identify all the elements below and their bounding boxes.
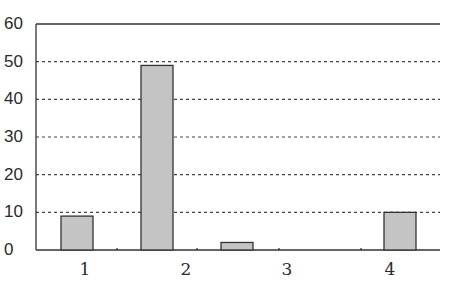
x-tick-label: 1 — [75, 261, 95, 278]
y-tick-label: 60 — [4, 15, 30, 32]
bar-3 — [221, 242, 253, 250]
x-tick-label: 2 — [176, 261, 196, 278]
y-tick-label: 30 — [4, 128, 30, 145]
y-tick-label: 10 — [4, 203, 30, 220]
x-tick-label: 3 — [277, 261, 297, 278]
y-tick-label: 20 — [4, 166, 30, 183]
y-tick-label: 40 — [4, 90, 30, 107]
bar-2 — [141, 65, 173, 250]
y-tick-label: 0 — [4, 241, 30, 258]
bar-4 — [384, 212, 416, 250]
y-tick-label: 50 — [4, 53, 30, 70]
x-tick-label: 4 — [380, 261, 400, 278]
bar-chart: 0102030405060 1234 — [0, 0, 454, 292]
plot-area — [0, 0, 454, 292]
bar-1 — [61, 216, 93, 250]
